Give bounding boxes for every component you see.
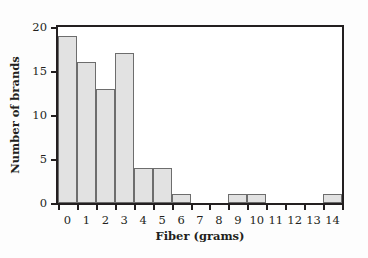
x-axis-title: Fiber (grams) xyxy=(155,229,244,243)
x-axis-tick xyxy=(172,203,174,210)
x-axis-tick xyxy=(191,203,193,210)
x-axis-tick xyxy=(96,203,98,210)
x-axis-tick-label: 12 xyxy=(287,213,302,227)
y-axis-tick-label: 0 xyxy=(40,196,47,210)
x-axis-tick xyxy=(304,203,306,210)
x-axis-tick-label: 9 xyxy=(234,213,241,227)
x-axis-tick-label: 8 xyxy=(215,213,222,227)
x-axis-tick-label: 3 xyxy=(121,213,128,227)
x-axis-tick xyxy=(285,203,287,210)
x-axis-tick xyxy=(58,203,60,210)
x-axis-tick xyxy=(77,203,79,210)
y-axis-tick-label: 5 xyxy=(40,152,47,166)
y-axis-tick xyxy=(51,159,58,161)
y-axis-tick xyxy=(51,203,58,205)
x-axis-tick-label: 0 xyxy=(64,213,71,227)
plot-area: 05101520 01234567891011121314 xyxy=(56,25,344,205)
histogram-figure: Number of brands 05101520 01234567891011… xyxy=(0,0,368,258)
x-axis-tick xyxy=(209,203,211,210)
y-axis-tick xyxy=(51,71,58,73)
y-axis-title: Number of brands xyxy=(8,56,22,174)
x-axis-tick-label: 11 xyxy=(268,213,283,227)
x-axis-tick-label: 7 xyxy=(196,213,203,227)
x-axis-tick-label: 5 xyxy=(158,213,165,227)
x-axis-tick-label: 13 xyxy=(306,213,321,227)
x-axis-tick xyxy=(266,203,268,210)
y-axis-tick-label: 10 xyxy=(32,108,47,122)
x-axis-tick-label: 10 xyxy=(249,213,264,227)
x-axis-tick xyxy=(323,203,325,210)
y-axis: 05101520 xyxy=(58,27,342,203)
x-axis-tick xyxy=(153,203,155,210)
y-axis-tick xyxy=(51,115,58,117)
x-axis-tick-label: 14 xyxy=(325,213,340,227)
x-axis-tick xyxy=(134,203,136,210)
y-axis-tick-label: 15 xyxy=(32,64,47,78)
y-axis-tick xyxy=(51,27,58,29)
x-axis-tick xyxy=(115,203,117,210)
x-axis-tick-label: 2 xyxy=(102,213,109,227)
x-axis-tick xyxy=(247,203,249,210)
y-axis-tick-label: 20 xyxy=(32,20,47,34)
x-axis-tick-label: 4 xyxy=(140,213,147,227)
x-axis-tick xyxy=(342,203,344,210)
x-axis-tick-label: 6 xyxy=(177,213,184,227)
x-axis-tick xyxy=(228,203,230,210)
x-axis-tick-label: 1 xyxy=(83,213,90,227)
